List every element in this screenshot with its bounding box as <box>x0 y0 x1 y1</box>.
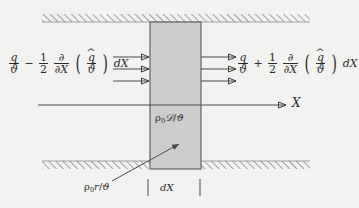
control-volume-slab <box>150 22 201 169</box>
flux-out-inner-num: ^ q <box>316 52 326 63</box>
flux-out-inner-den: ϑ <box>316 63 326 75</box>
flux-out-theta: ϑ <box>238 63 248 75</box>
flux-in-differential: dX <box>113 58 130 69</box>
flux-in-inner-num: ^ q <box>87 52 97 63</box>
x-axis-label: X <box>292 97 301 109</box>
flux-in-paren-close: ) <box>102 58 107 70</box>
dissipation-script-d: 𝒟 <box>165 112 173 123</box>
incoming-flux-label: q ϑ − 1 2 ∂ ∂X ( ^ q ϑ ) dX <box>8 52 130 75</box>
flux-out-partial-den: ∂X <box>283 63 299 75</box>
thickness-tick-marks <box>148 179 200 196</box>
flux-out-differential: dX <box>342 58 359 69</box>
flux-out-half-den: 2 <box>268 63 277 75</box>
flux-out-paren-close: ) <box>331 58 336 70</box>
flux-in-inner-den: ϑ <box>87 63 97 75</box>
source-theta: ϑ <box>102 181 109 192</box>
flux-in-theta: ϑ <box>9 63 19 75</box>
flux-out-half-num: 1 <box>268 52 277 63</box>
flux-in-paren-open: ( <box>75 58 80 70</box>
flux-out-hat-accent: ^ <box>315 48 325 57</box>
dissipation-theta: ϑ <box>176 112 183 123</box>
flux-out-paren-open: ( <box>304 58 309 70</box>
flux-in-partial-num: ∂ <box>54 52 70 63</box>
outgoing-flux-arrows <box>201 57 236 81</box>
flux-out-partial-num: ∂ <box>283 52 299 63</box>
flux-in-half-den: 2 <box>39 63 48 75</box>
flux-out-q: q <box>238 52 248 63</box>
flux-in-half-num: 1 <box>39 52 48 63</box>
flux-in-q: q <box>9 52 19 63</box>
flux-out-operator: + <box>252 58 263 69</box>
flux-in-hat-accent: ^ <box>86 48 96 57</box>
flux-in-operator: − <box>23 58 34 69</box>
outgoing-flux-label: q ϑ + 1 2 ∂ ∂X ( ^ q ϑ ) dX <box>237 52 359 75</box>
thickness-label: dX <box>160 183 174 193</box>
dissipation-term-label: ρ0𝒟/ϑ <box>155 113 184 124</box>
flux-in-partial-den: ∂X <box>54 63 70 75</box>
source-term-label: ρ0r/ϑ <box>84 182 109 193</box>
top-boundary-wall <box>42 14 310 22</box>
